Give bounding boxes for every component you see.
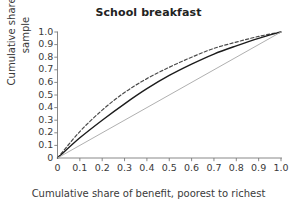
x-tick-label: 0.2 bbox=[90, 163, 114, 173]
y-tick-label: 0.9 bbox=[27, 39, 53, 49]
x-tick-label: 0 bbox=[46, 163, 70, 173]
y-tick-label: 0.3 bbox=[27, 115, 53, 125]
y-tick-label: 0 bbox=[27, 153, 53, 163]
series-equality-line bbox=[58, 32, 282, 158]
y-tick-label: 0.2 bbox=[27, 127, 53, 137]
x-tick-label: 0.1 bbox=[68, 163, 92, 173]
chart-figure: School breakfast Cumulative share of sam… bbox=[0, 0, 297, 202]
x-tick-label: 0.3 bbox=[113, 163, 137, 173]
y-tick-label: 0.1 bbox=[27, 140, 53, 150]
y-tick-label: 0.5 bbox=[27, 90, 53, 100]
x-tick-label: 0.7 bbox=[202, 163, 226, 173]
y-tick-label: 0.6 bbox=[27, 77, 53, 87]
y-axis-label-wrapper: Cumulative share of sample bbox=[5, 0, 19, 101]
y-tick-label: 0.8 bbox=[27, 52, 53, 62]
x-tick-label: 0.5 bbox=[157, 163, 181, 173]
x-tick-label: 0.6 bbox=[180, 163, 204, 173]
x-axis-label: Cumulative share of benefit, poorest to … bbox=[0, 188, 297, 199]
x-tick-label: 0.8 bbox=[224, 163, 248, 173]
x-tick-label: 1.0 bbox=[269, 163, 293, 173]
x-tick-label: 0.9 bbox=[247, 163, 271, 173]
y-tick-label: 0.7 bbox=[27, 64, 53, 74]
y-tick-label: 0.4 bbox=[27, 102, 53, 112]
y-tick-label: 1.0 bbox=[27, 27, 53, 37]
x-tick-label: 0.4 bbox=[135, 163, 159, 173]
